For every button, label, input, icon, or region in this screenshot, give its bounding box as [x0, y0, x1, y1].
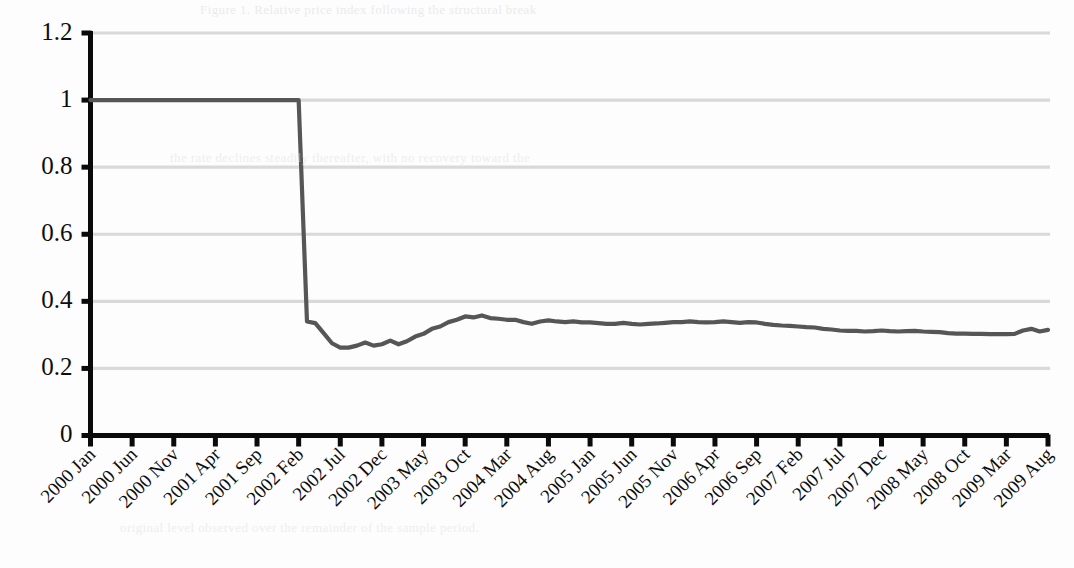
gridlines [91, 33, 1051, 368]
y-tick-label: 1.2 [41, 18, 72, 45]
y-tick-label: 0.4 [41, 286, 73, 313]
series-line-index [91, 100, 1049, 348]
chart-container: Figure 1. Relative price index following… [0, 0, 1074, 568]
y-tick-label: 0.8 [41, 152, 72, 179]
y-tick-label: 0.6 [41, 219, 72, 246]
x-axis-labels: 2000 Jan2000 Jun2000 Nov2001 Apr2001 Sep… [36, 443, 1057, 513]
y-axis-labels: 1.210.80.60.40.20 [41, 18, 73, 448]
y-tick-label: 0.2 [41, 353, 72, 380]
line-chart: 1.210.80.60.40.20 2000 Jan2000 Jun2000 N… [0, 0, 1074, 568]
y-tick-label: 0 [60, 420, 73, 447]
y-tick-label: 1 [60, 85, 73, 112]
